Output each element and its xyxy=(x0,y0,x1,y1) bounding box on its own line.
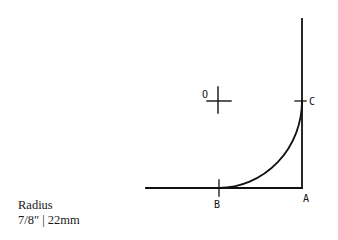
caption: Radius 7/8" | 22mm xyxy=(18,198,80,228)
label-point-a: A xyxy=(303,193,309,204)
label-center-o: O xyxy=(202,89,208,100)
caption-measurement: 7/8" | 22mm xyxy=(18,213,80,228)
label-point-c: C xyxy=(309,96,315,107)
caption-title: Radius xyxy=(18,198,80,213)
radius-arc xyxy=(219,101,302,188)
label-point-b: B xyxy=(214,199,220,210)
